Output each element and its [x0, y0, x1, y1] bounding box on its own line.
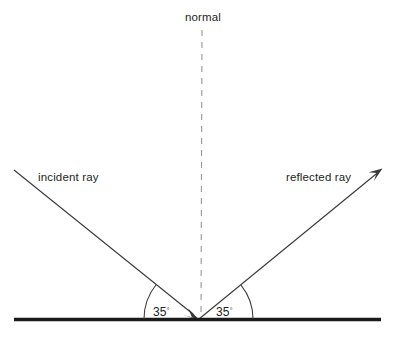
incident-ray-line — [14, 170, 194, 315]
angle-of-reflection-label: 35° — [216, 305, 233, 319]
angle-of-incidence-value: 35 — [153, 305, 167, 319]
normal-dashed-line — [201, 30, 202, 317]
reflection-diagram-svg: normal incident ray reflected ray 35° 35… — [0, 0, 397, 337]
angle-of-reflection-arc — [241, 285, 253, 319]
angle-of-incidence-label: 35° — [153, 305, 170, 319]
reflected-ray-label: reflected ray — [286, 171, 351, 183]
angle-of-reflection-value: 35 — [216, 305, 230, 319]
incident-ray-label: incident ray — [38, 171, 99, 183]
angle-of-reflection-degree-symbol: ° — [230, 307, 233, 314]
angle-of-incidence-degree-symbol: ° — [167, 307, 170, 314]
reflected-ray-line — [199, 173, 377, 319]
normal-label: normal — [185, 11, 221, 23]
reflection-diagram-canvas: normal incident ray reflected ray 35° 35… — [0, 0, 397, 337]
